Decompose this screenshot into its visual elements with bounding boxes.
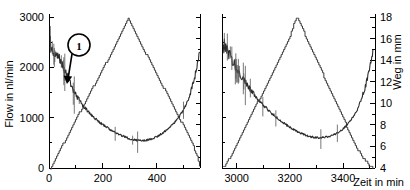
tick-label: 6 (380, 140, 386, 152)
tick-label: 3400 (331, 172, 355, 184)
tick-label: 200 (94, 172, 112, 184)
tick-label: 400 (148, 172, 166, 184)
tick-label: 2000 (20, 61, 44, 73)
callout-label: 1 (76, 40, 82, 52)
left-panel-tick-labels: 02004000100020003000 (20, 11, 167, 184)
tick-label: 3000 (20, 11, 44, 23)
right-panel-tick-labels: 3000320034004681012141618 (224, 11, 392, 184)
tick-label: 0 (46, 172, 52, 184)
y-axis-right-title: Weg in mm (391, 34, 403, 89)
tick-label: 3200 (278, 172, 302, 184)
annotation-callout-1: 1 (64, 34, 90, 84)
tick-label: 4 (380, 162, 386, 174)
left-panel: 02004000100020003000 (20, 11, 200, 184)
tick-label: 18 (380, 11, 392, 23)
y-axis-left-title: Flow in nl/min (3, 60, 15, 127)
chart-svg: 02004000100020003000 3000320034004681012… (0, 0, 410, 190)
tick-label: 10 (380, 97, 392, 109)
tick-label: 8 (380, 119, 386, 131)
right-panel-series (223, 18, 373, 169)
flow-curve-right (223, 39, 373, 138)
right-panel: 3000320034004681012141618 (222, 11, 392, 184)
tick-label: 1000 (20, 112, 44, 124)
x-axis-title: Zeit in min (353, 176, 404, 188)
tick-label: 3000 (224, 172, 248, 184)
tick-label: 0 (38, 162, 44, 174)
chart-figure: 02004000100020003000 3000320034004681012… (0, 0, 410, 190)
callout-leader-line (68, 54, 72, 79)
weg-curve-right (223, 18, 373, 169)
